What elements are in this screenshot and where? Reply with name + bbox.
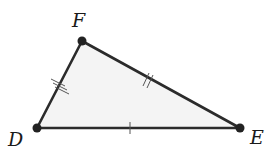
triangle-diagram: F D E (0, 0, 274, 154)
vertex-d-label: D (7, 128, 23, 150)
vertex-f-point (78, 37, 87, 46)
vertex-e-label: E (249, 126, 264, 148)
vertex-e-point (236, 124, 245, 133)
vertex-f-label: F (71, 9, 86, 31)
triangle-def (37, 41, 240, 128)
vertex-d-point (33, 124, 42, 133)
